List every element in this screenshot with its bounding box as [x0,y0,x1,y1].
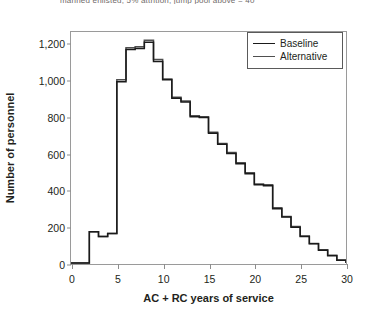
x-axis-tick-mark [72,264,73,269]
x-axis-tick-mark [347,264,348,269]
y-axis-tick-mark [67,117,71,118]
chart-figure: manned enlisted; 5% attrition; jump pool… [0,0,369,319]
x-axis-tick-mark [118,264,119,269]
x-axis-title: AC + RC years of service [70,292,347,304]
y-axis-tick-mark [67,44,71,45]
y-axis-title-text: Number of personnel [4,93,16,204]
x-axis-tick-label: 0 [69,273,75,285]
y-axis-tick-mark [67,80,71,81]
y-axis-tick-label: 1,000 [39,75,65,87]
x-axis-tick-mark [210,264,211,269]
y-axis-tick-label: 400 [47,185,65,197]
y-axis-tick-label: 1,200 [39,38,65,50]
legend-label-baseline: Baseline [280,38,318,49]
figure-title-cropped: manned enlisted; 5% attrition; jump pool… [60,0,320,4]
y-axis-tick-label: 200 [47,222,65,234]
y-axis-title: Number of personnel [2,31,18,265]
y-axis-tick-mark [67,265,71,266]
x-axis-tick-mark [164,264,165,269]
legend-swatch-alternative [253,56,275,57]
series-line-baseline [71,42,346,263]
legend-item-baseline: Baseline [253,37,337,50]
y-axis-tick-label: 600 [47,149,65,161]
x-axis-tick-label: 5 [115,273,121,285]
y-axis-tick-mark [67,191,71,192]
chart-legend: Baseline Alternative [247,32,343,69]
y-axis-tick-mark [67,228,71,229]
y-axis-tick-label: 0 [59,259,65,271]
x-axis-tick-label: 25 [295,273,307,285]
y-axis-tick-mark [67,154,71,155]
x-axis-tick-label: 20 [249,273,261,285]
legend-label-alternative: Alternative [280,51,327,62]
legend-item-alternative: Alternative [253,50,337,63]
x-axis-tick-mark [301,264,302,269]
x-axis-tick-label: 30 [341,273,353,285]
legend-swatch-baseline [253,43,275,44]
series-line-alternative [71,40,346,263]
x-axis-tick-mark [255,264,256,269]
x-axis-tick-label: 15 [204,273,216,285]
x-axis-tick-label: 10 [158,273,170,285]
y-axis-tick-label: 800 [47,112,65,124]
